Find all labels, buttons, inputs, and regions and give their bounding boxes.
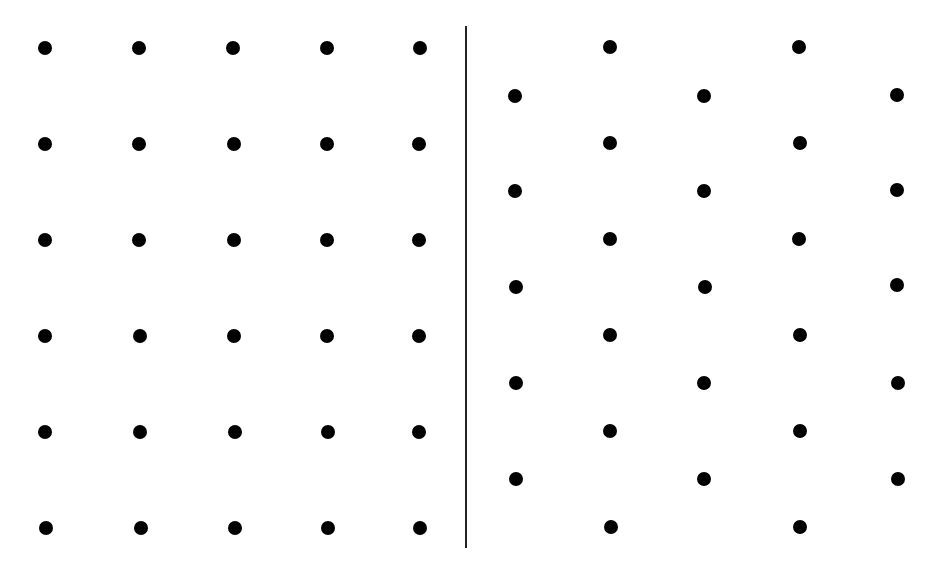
lattice-dot — [133, 425, 147, 439]
lattice-dot — [38, 329, 52, 343]
lattice-dot — [890, 183, 904, 197]
lattice-dot — [228, 425, 242, 439]
lattice-dot — [412, 329, 426, 343]
lattice-dot — [320, 137, 334, 151]
lattice-dot — [132, 233, 146, 247]
lattice-dot — [320, 329, 334, 343]
lattice-dot — [134, 521, 148, 535]
lattice-dot — [38, 425, 52, 439]
lattice-dot — [320, 41, 334, 55]
lattice-dot — [603, 136, 617, 150]
lattice-dot — [320, 233, 334, 247]
lattice-dot — [132, 137, 146, 151]
lattice-dot — [509, 472, 523, 486]
lattice-dot — [226, 41, 240, 55]
lattice-dot — [227, 233, 241, 247]
lattice-dot — [321, 425, 335, 439]
lattice-dot — [39, 521, 53, 535]
lattice-dot — [697, 89, 711, 103]
lattice-dot — [508, 89, 522, 103]
lattice-dot — [227, 329, 241, 343]
lattice-dot — [793, 328, 807, 342]
lattice-dot — [891, 472, 905, 486]
lattice-dot — [697, 376, 711, 390]
lattice-dot — [793, 424, 807, 438]
vertical-divider-line — [465, 26, 467, 548]
lattice-dot — [132, 41, 146, 55]
lattice-dot — [38, 41, 52, 55]
lattice-dot — [413, 521, 427, 535]
lattice-dot — [603, 328, 617, 342]
lattice-dot — [698, 280, 712, 294]
lattice-dot — [697, 184, 711, 198]
lattice-dot — [412, 233, 426, 247]
lattice-dot — [603, 40, 617, 54]
lattice-dot — [38, 233, 52, 247]
lattice-dot — [890, 88, 904, 102]
lattice-dot — [508, 184, 522, 198]
lattice-dot — [228, 521, 242, 535]
lattice-dot — [792, 40, 806, 54]
lattice-dot — [413, 41, 427, 55]
lattice-dot — [697, 472, 711, 486]
lattice-dot — [509, 280, 523, 294]
lattice-dot — [891, 376, 905, 390]
lattice-dot — [227, 137, 241, 151]
dot-lattice-diagram — [0, 0, 940, 565]
lattice-dot — [412, 425, 426, 439]
lattice-dot — [133, 329, 147, 343]
lattice-dot — [321, 521, 335, 535]
lattice-dot — [509, 376, 523, 390]
lattice-dot — [890, 278, 904, 292]
lattice-dot — [38, 137, 52, 151]
lattice-dot — [793, 520, 807, 534]
lattice-dot — [603, 424, 617, 438]
lattice-dot — [412, 137, 426, 151]
lattice-dot — [792, 232, 806, 246]
lattice-dot — [604, 520, 618, 534]
lattice-dot — [793, 136, 807, 150]
lattice-dot — [603, 232, 617, 246]
